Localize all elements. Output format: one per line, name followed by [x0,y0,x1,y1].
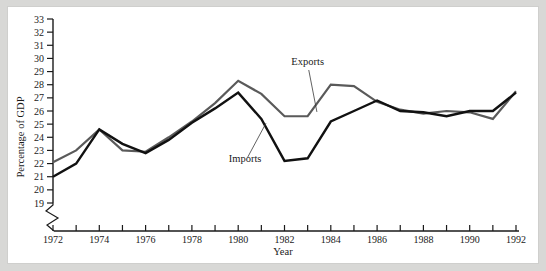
x-tick-label: 1984 [321,234,341,245]
y-tick-label: 19 [34,198,44,209]
axis-break-icon [46,203,58,231]
x-tick-label: 1980 [228,234,248,245]
x-tick-label: 1976 [136,234,156,245]
x-axis: 1972197419761978198019821984198619881990… [43,225,526,245]
x-tick-label: 1978 [182,234,202,245]
line-chart: 192021222324252627282930313233 197219741… [8,7,538,263]
y-tick-label: 28 [34,79,44,90]
series-line-exports [53,81,516,162]
leader-line-imports [248,123,266,157]
y-axis: 192021222324252627282930313233 [34,14,58,231]
x-tick-label: 1974 [89,234,109,245]
y-tick-label: 29 [34,66,44,77]
x-tick-label: 1988 [413,234,433,245]
y-axis-title: Percentage of GDP [15,96,26,177]
x-tick-label: 1972 [43,234,63,245]
x-tick-label: 1990 [460,234,480,245]
y-tick-label: 26 [34,106,44,117]
y-tick-label: 24 [34,132,44,143]
series-label-imports: Imports [229,153,262,164]
x-tick-label: 1992 [506,234,526,245]
x-axis-title: Year [273,246,293,257]
x-tick-label: 1986 [367,234,387,245]
y-tick-label: 31 [34,40,44,51]
y-tick-label: 33 [34,14,44,25]
y-tick-label: 32 [34,27,44,38]
y-tick-label: 25 [34,119,44,130]
series-line-imports [53,93,516,177]
y-tick-label: 30 [34,53,44,64]
y-tick-label: 22 [34,158,44,169]
series-label-exports: Exports [291,56,324,67]
leader-line-exports [309,70,317,112]
x-tick-label: 1982 [275,234,295,245]
series-layer [53,81,516,177]
y-tick-label: 20 [34,184,44,195]
y-tick-label: 21 [34,171,44,182]
y-tick-label: 27 [34,92,44,103]
figure-frame: 192021222324252627282930313233 197219741… [0,0,546,271]
y-tick-label: 23 [34,145,44,156]
chart-plate: 192021222324252627282930313233 197219741… [8,7,538,263]
